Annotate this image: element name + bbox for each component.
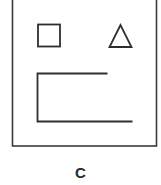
- figure-caption: C: [0, 163, 161, 183]
- diagram-figure: [0, 0, 161, 185]
- triangle-shape: [110, 25, 132, 47]
- bracket-shape: [38, 74, 133, 122]
- square-shape: [38, 25, 60, 47]
